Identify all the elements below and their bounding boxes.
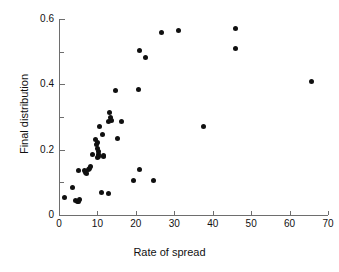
x-tick-label-10: 10 xyxy=(82,218,112,230)
x-tick-label-40: 40 xyxy=(198,218,228,230)
data-point xyxy=(101,153,106,158)
y-tick-label-0: 0 xyxy=(20,209,54,221)
data-point xyxy=(99,190,104,195)
data-point xyxy=(76,168,81,173)
data-point xyxy=(88,164,93,169)
data-point xyxy=(143,55,148,60)
data-point xyxy=(137,48,142,53)
x-tick-label-30: 30 xyxy=(159,218,189,230)
data-point xyxy=(233,26,238,31)
data-point xyxy=(100,132,105,137)
data-point xyxy=(113,88,118,93)
x-tick-label-50: 50 xyxy=(236,218,266,230)
data-point xyxy=(62,195,67,200)
data-point xyxy=(233,46,238,51)
x-tick-label-20: 20 xyxy=(121,218,151,230)
plot-data-area xyxy=(59,19,328,215)
data-point xyxy=(137,167,142,172)
y-tick-label-0.6: 0.6 xyxy=(20,13,54,25)
x-tick-label-60: 60 xyxy=(275,218,305,230)
data-point xyxy=(96,154,101,159)
x-tick-70 xyxy=(328,211,329,215)
scatter-plot-figure: 010203040506070 00.20.40.6 Rate of sprea… xyxy=(0,0,339,272)
data-point xyxy=(119,119,124,124)
data-point xyxy=(136,87,141,92)
data-point xyxy=(176,28,181,33)
data-point xyxy=(95,140,100,145)
data-point xyxy=(309,79,314,84)
data-point xyxy=(131,178,136,183)
data-point xyxy=(70,185,75,190)
data-point xyxy=(77,197,82,202)
data-point xyxy=(109,118,114,123)
data-point xyxy=(106,191,111,196)
data-point xyxy=(90,152,95,157)
data-point xyxy=(115,136,120,141)
x-axis-line xyxy=(59,215,328,216)
data-point xyxy=(97,124,102,129)
data-point xyxy=(159,30,164,35)
y-tick-0 xyxy=(60,215,65,216)
data-point xyxy=(107,110,112,115)
y-axis-label: Final distribution xyxy=(18,44,30,184)
data-point xyxy=(201,124,206,129)
x-tick-label-70: 70 xyxy=(313,218,339,230)
x-axis-label: Rate of spread xyxy=(0,246,339,258)
data-point xyxy=(151,178,156,183)
